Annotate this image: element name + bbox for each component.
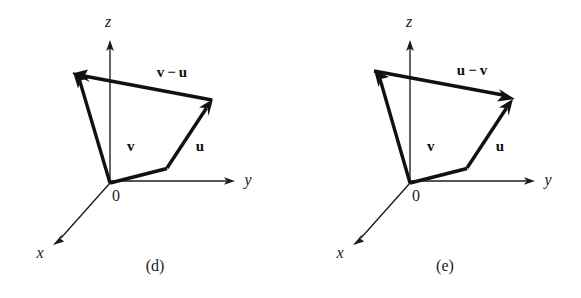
vector-u-e	[467, 99, 513, 168]
difference-lead-d: v	[157, 64, 165, 80]
vector-v-e	[374, 70, 410, 183]
z-axis-d	[106, 40, 114, 183]
axis-label-x-e: x	[336, 245, 343, 261]
vector-label-v-e: v	[427, 139, 435, 154]
diagram-panel-e: z y x 0 v u u−v (e)	[291, 0, 581, 298]
vector-u-d	[167, 99, 213, 168]
panel-caption-d: (d)	[146, 258, 165, 274]
axis-label-x-d: x	[36, 245, 43, 261]
origin-label-e: 0	[412, 188, 420, 204]
vector-label-v-d: v	[127, 139, 135, 154]
axis-label-z-d: z	[105, 14, 111, 30]
vector-diagram-e-svg	[291, 0, 581, 298]
figure-root: z y x 0 v u v−u (d)	[0, 0, 581, 298]
diagram-panel-d: z y x 0 v u v−u (d)	[0, 0, 290, 298]
vector-v-d	[73, 72, 110, 183]
vector-label-u-d: u	[196, 139, 205, 154]
difference-trail-d: u	[179, 64, 187, 80]
vector-label-difference-d: v−u	[157, 65, 187, 80]
origin-label-d: 0	[112, 188, 120, 204]
vector-label-difference-e: u−v	[457, 63, 487, 78]
x-axis-d	[53, 183, 110, 245]
axis-label-z-e: z	[406, 14, 412, 30]
vector-label-u-e: u	[496, 139, 505, 154]
difference-operator-e: −	[465, 62, 480, 78]
vector-difference-d	[72, 70, 212, 101]
difference-operator-d: −	[164, 64, 179, 80]
axis-label-y-e: y	[544, 172, 551, 188]
panel-caption-e: (e)	[436, 258, 454, 274]
vector-difference-e	[374, 71, 515, 102]
x-axis-e	[353, 183, 410, 245]
z-axis-e	[406, 40, 414, 183]
difference-trail-e: v	[480, 62, 488, 78]
axis-label-y-d: y	[244, 172, 251, 188]
